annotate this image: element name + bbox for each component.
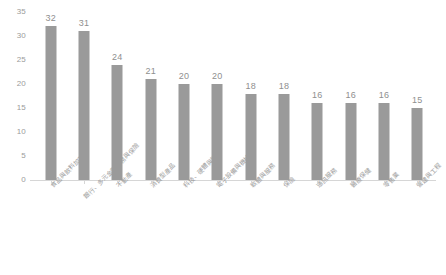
y-axis-tick-label: 0 (21, 176, 26, 184)
bar-value-label: 20 (212, 72, 222, 81)
bar[interactable] (412, 108, 423, 180)
y-axis-tick-label: 20 (17, 80, 26, 88)
bar-group[interactable]: 18 (234, 12, 267, 180)
bar-chart: 05101520253035 323124212020181816161615 … (0, 0, 446, 275)
bar-value-label: 15 (412, 96, 422, 105)
x-axis-tick (51, 181, 52, 184)
y-axis: 05101520253035 (0, 12, 30, 180)
bar[interactable] (345, 103, 356, 180)
y-axis-tick-label: 5 (21, 152, 26, 160)
x-axis-tick (251, 181, 252, 184)
bar[interactable] (278, 94, 289, 180)
x-axis-tick (151, 181, 152, 184)
x-axis-tick (184, 181, 185, 184)
bar-value-label: 18 (279, 82, 289, 91)
y-axis-tick-label: 35 (17, 8, 26, 16)
bar-value-label: 18 (245, 82, 255, 91)
bar-value-label: 32 (45, 14, 55, 23)
bar-group[interactable]: 18 (267, 12, 300, 180)
bar-group[interactable]: 32 (34, 12, 67, 180)
bar-value-label: 24 (112, 53, 122, 62)
y-axis-tick-label: 15 (17, 104, 26, 112)
bar[interactable] (378, 103, 389, 180)
x-axis-tick (317, 181, 318, 184)
bar-group[interactable]: 31 (67, 12, 100, 180)
x-axis-labels: 食品與飲料加工銀行、多元金融服務與保險不動產消費型產品科技、硬體與設備電子設備與… (34, 184, 434, 274)
x-axis-tick (217, 181, 218, 184)
bar-group[interactable]: 15 (401, 12, 434, 180)
bar-value-label: 16 (379, 91, 389, 100)
x-axis-tick (417, 181, 418, 184)
bar[interactable] (45, 26, 56, 180)
bar[interactable] (245, 94, 256, 180)
bar-group[interactable]: 16 (301, 12, 334, 180)
bar-value-label: 16 (312, 91, 322, 100)
bar-value-label: 21 (145, 67, 155, 76)
bar[interactable] (145, 79, 156, 180)
bar[interactable] (212, 84, 223, 180)
bar-group[interactable]: 16 (334, 12, 367, 180)
y-axis-tick-label: 10 (17, 128, 26, 136)
bar-value-label: 31 (79, 19, 89, 28)
x-axis-tick (117, 181, 118, 184)
bar-value-label: 20 (179, 72, 189, 81)
y-axis-tick-label: 30 (17, 32, 26, 40)
bar-group[interactable]: 21 (134, 12, 167, 180)
x-axis-tick (384, 181, 385, 184)
y-axis-tick-label: 25 (17, 56, 26, 64)
bar[interactable] (312, 103, 323, 180)
x-axis-tick (84, 181, 85, 184)
bar-value-label: 16 (345, 91, 355, 100)
bar[interactable] (178, 84, 189, 180)
x-axis-line (30, 180, 436, 181)
x-axis-tick (351, 181, 352, 184)
bar-group[interactable]: 16 (367, 12, 400, 180)
x-axis-tick (284, 181, 285, 184)
bar-group[interactable]: 20 (167, 12, 200, 180)
bars-container: 323124212020181816161615 (34, 12, 434, 180)
